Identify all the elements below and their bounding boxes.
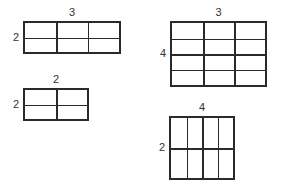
array-grid-a xyxy=(23,21,121,54)
row-divider xyxy=(172,54,265,56)
row-divider xyxy=(171,148,233,150)
column-count-label: 3 xyxy=(216,7,222,18)
array-grid-d xyxy=(169,116,235,180)
column-count-label: 3 xyxy=(69,7,75,18)
array-grid-c xyxy=(170,21,267,87)
row-divider xyxy=(172,39,265,41)
row-count-label: 2 xyxy=(159,142,165,153)
row-count-label: 2 xyxy=(13,32,19,43)
row-count-label: 4 xyxy=(160,48,166,59)
row-divider xyxy=(172,70,265,72)
column-count-label: 4 xyxy=(199,102,205,113)
row-divider xyxy=(25,105,87,107)
row-divider xyxy=(25,38,119,40)
column-count-label: 2 xyxy=(53,74,59,85)
array-grid-b xyxy=(23,88,89,121)
row-count-label: 2 xyxy=(13,99,19,110)
